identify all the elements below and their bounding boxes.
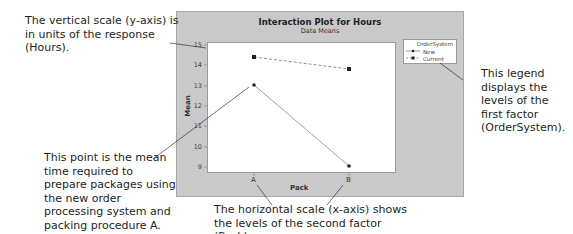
- y-tick-marks: [204, 45, 349, 176]
- callout-x-axis: The horizontal scale (x-axis) shows the …: [214, 203, 414, 234]
- callout-data-point: This point is the mean time required to …: [44, 151, 179, 232]
- series-new: [252, 83, 351, 168]
- leader-lines: [153, 43, 463, 205]
- series-current: [252, 55, 351, 71]
- callout-y-axis: The vertical scale (y-axis) is in units …: [25, 14, 185, 55]
- callout-legend: This legend displays the levels of the f…: [481, 67, 573, 135]
- legend-glyphs: [406, 50, 420, 60]
